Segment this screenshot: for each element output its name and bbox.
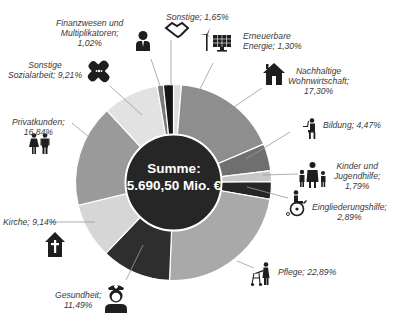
leader-privatkunden <box>72 123 90 138</box>
label-finanzwesen: Finanzwesen und Multiplikatoren; 1,02% <box>56 18 123 48</box>
handshake-icon <box>166 23 188 37</box>
bandage-icon <box>86 59 111 84</box>
label-eingliederung: Eingliederungshilfe; 2,89% <box>312 202 387 222</box>
donut-center-label: Summe: 5.690,50 Mio. € <box>125 160 223 194</box>
wind-solar-icon <box>200 28 231 52</box>
nurse-icon <box>105 285 127 314</box>
label-pflege: Pflege; 22,89% <box>278 267 336 277</box>
label-kirche: Kirche; 9,14% <box>3 217 57 227</box>
label-nachhaltige: Nachhaltige Wohnwirtschaft; 17,30% <box>288 66 349 96</box>
leader-pflege <box>237 261 254 268</box>
label-erneuerbare: Erneuerbare Energie; 1,30% <box>243 31 302 51</box>
church-icon <box>45 232 65 257</box>
student-desk-icon <box>303 118 315 139</box>
wheelchair-icon <box>287 190 308 215</box>
house-icon <box>263 63 285 85</box>
label-sonstige: Sonstige; 1,65% <box>166 12 229 22</box>
label-bildung: Bildung; 4,47% <box>323 120 381 130</box>
label-privatkunden: Privatkunden; 16,84% <box>12 117 65 137</box>
businessman-icon <box>136 31 150 51</box>
leader-finanzwesen <box>151 59 160 86</box>
elderly-walker-icon <box>251 262 270 286</box>
label-kinder: Kinder und Jugendhilfe; 1,79% <box>334 161 380 191</box>
label-sozialarbeit: Sonstige Sozialarbeit; 9,21% <box>8 60 82 80</box>
center-label-total: 5.690,50 Mio. € <box>125 177 223 194</box>
family-icon <box>300 162 326 188</box>
label-gesundheit: Gesundheit; 11,49% <box>55 290 101 310</box>
center-label-title: Summe: <box>125 160 223 177</box>
